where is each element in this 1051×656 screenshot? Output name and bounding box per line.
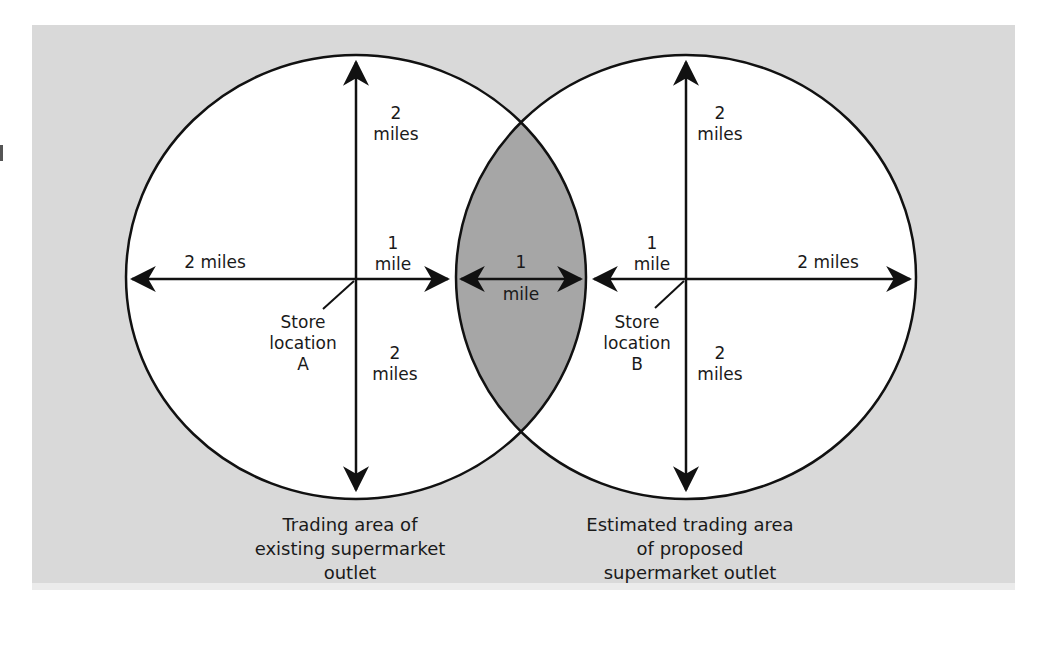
overlap-distance-value: 1 [506, 252, 536, 273]
store-b-up-distance: 2 miles [690, 103, 750, 145]
overlap-distance-unit: mile [496, 284, 546, 305]
store-a-left-distance: 2 miles [170, 252, 260, 273]
store-b-caption: Estimated trading area of proposed super… [560, 513, 820, 585]
store-b-down-distance: 2 miles [690, 343, 750, 385]
store-a-up-distance: 2 miles [366, 103, 426, 145]
trading-area-diagram [0, 0, 1051, 656]
store-a-right-distance: 1 mile [363, 233, 423, 275]
store-a-location-label: Store location A [258, 312, 348, 375]
store-a-down-distance: 2 miles [365, 343, 425, 385]
store-b-left-distance: 1 mile [622, 233, 682, 275]
store-b-right-distance: 2 miles [778, 252, 878, 273]
store-b-location-label: Store location B [592, 312, 682, 375]
store-a-caption: Trading area of existing supermarket out… [225, 513, 475, 585]
